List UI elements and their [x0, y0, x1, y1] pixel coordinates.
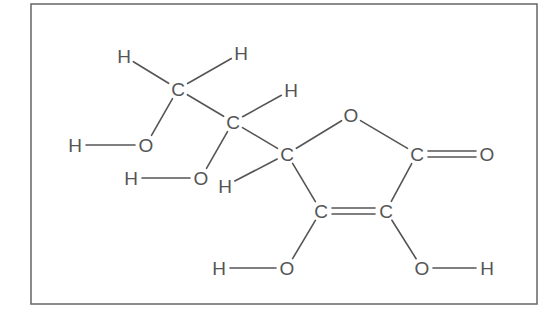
atom-h2: H [234, 43, 248, 64]
atom-h8: H [480, 258, 494, 279]
bond-c4-c6 [391, 164, 411, 202]
bond-c2-o2 [207, 132, 228, 169]
atom-c6: C [379, 201, 393, 222]
atom-c4: C [410, 144, 424, 165]
atom-h1: H [117, 46, 131, 67]
bond-c1-o1 [152, 99, 173, 136]
bond-o5-c4 [361, 121, 408, 149]
atom-h4: H [68, 135, 82, 156]
atom-h3: H [284, 80, 298, 101]
atom-o5: O [344, 105, 359, 126]
bond-c3-c5 [293, 163, 316, 201]
atom-c2: C [226, 112, 240, 133]
ascorbic-acid-structure-diagram: HHCHCHOHOCHOCOCCHOOH [0, 0, 560, 321]
bond-c3-o5 [296, 121, 341, 149]
bond-c5-o3 [293, 220, 316, 258]
bond-h2-c1 [188, 59, 232, 84]
atom-c1: C [171, 79, 185, 100]
atom-o3: O [280, 258, 295, 279]
atom-c5: C [314, 201, 328, 222]
atom-c3: C [280, 144, 294, 165]
bond-c1-c2 [187, 95, 223, 117]
atom-o6: O [480, 144, 495, 165]
bond-c6-o4 [392, 220, 416, 258]
bond-h1-c1 [133, 62, 168, 84]
atom-h5: H [124, 168, 138, 189]
atom-h7: H [212, 258, 226, 279]
bond-c3-h6 [235, 159, 277, 181]
atoms-group: HHCHCHOHOCHOCOCCHOOH [68, 43, 494, 279]
atom-o2: O [194, 168, 209, 189]
atom-o1: O [139, 135, 154, 156]
bond-c2-c3 [243, 128, 278, 149]
atom-o4: O [415, 258, 430, 279]
atom-h6: H [218, 176, 232, 197]
bond-c2-h3 [243, 95, 282, 116]
